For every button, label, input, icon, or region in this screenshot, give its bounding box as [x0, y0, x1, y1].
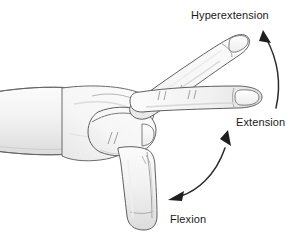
finger-extension — [130, 86, 262, 112]
finger-flexion — [118, 147, 157, 230]
label-extension: Extension — [236, 116, 285, 129]
anatomy-figure: Hyperextension Extension Flexion — [0, 0, 297, 239]
label-hyperextension: Hyperextension — [191, 9, 269, 22]
label-flexion: Flexion — [170, 213, 206, 226]
flexion-extension-arrow — [168, 130, 231, 201]
